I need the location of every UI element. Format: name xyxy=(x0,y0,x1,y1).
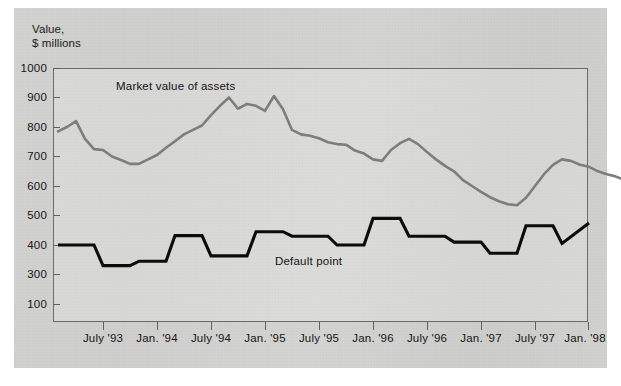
market-value-line xyxy=(58,96,621,207)
default-point-series-label: Default point xyxy=(275,255,342,267)
chart-figure: Value, $ millions 1000 900 800 700 600 5… xyxy=(0,0,621,386)
chart-plot-lines xyxy=(0,0,621,386)
market-value-series-label: Market value of assets xyxy=(116,80,235,92)
